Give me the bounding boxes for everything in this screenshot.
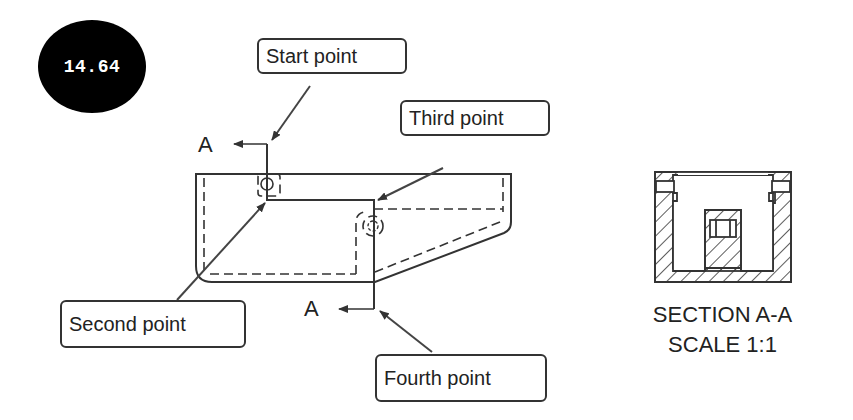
section-scale: SCALE 1:1 [620, 330, 825, 360]
callout-fourth-point: Fourth point [375, 354, 547, 402]
callout-start-point: Start point [257, 38, 407, 74]
section-cutting-line [234, 144, 374, 309]
section-title: SECTION A-A [620, 300, 825, 330]
section-label-a-top: A [198, 132, 213, 158]
section-view-caption: SECTION A-A SCALE 1:1 [620, 300, 825, 360]
section-view-drawing [655, 172, 791, 282]
section-label-a-bottom: A [304, 296, 319, 322]
callout-second-point: Second point [60, 300, 246, 348]
callout-third-point: Third point [400, 100, 550, 136]
